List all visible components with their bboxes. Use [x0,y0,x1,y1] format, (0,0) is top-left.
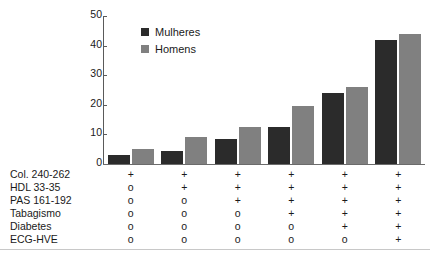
factor-cell: + [388,207,408,220]
factor-cell: + [281,168,301,181]
bar-chart-figure: 01020304050 MulheresHomens Col. 240-262+… [0,0,430,253]
y-axis-tick-label: 40 [90,39,102,50]
y-axis-tick-label: 10 [90,127,102,138]
factor-cell: o [335,233,355,246]
factor-row: HDL 33-35o+++++ [0,181,430,194]
factor-cell: + [335,207,355,220]
factor-cell: + [281,194,301,207]
legend-item: Mulheres [141,24,200,39]
factor-cell: + [388,168,408,181]
bar-mulheres [268,127,290,164]
bar-mulheres [161,151,183,164]
factor-cell: + [388,194,408,207]
risk-factor-table: Col. 240-262++++++HDL 33-35o+++++PAS 161… [0,168,430,248]
y-axis-tick-label: 50 [90,9,102,20]
y-axis-tick-label: 20 [90,98,102,109]
legend-swatch [141,45,149,53]
bottom-divider [0,249,430,250]
factor-cell: + [388,181,408,194]
factor-cell: + [174,181,194,194]
bar-homens [399,34,421,164]
factor-cell: o [121,181,141,194]
factor-row-label: Tabagismo [10,207,61,220]
bar-group [268,16,314,164]
chart-legend: MulheresHomens [141,24,200,58]
factor-row-label: HDL 33-35 [10,181,60,194]
bar-mulheres [322,93,344,164]
factor-cell: o [174,220,194,233]
factor-cell: + [281,181,301,194]
legend-label: Mulheres [155,26,200,38]
bar-homens [185,137,207,164]
factor-cell: o [174,194,194,207]
legend-swatch [141,28,149,36]
bar-homens [132,149,154,164]
factor-cell: + [388,220,408,233]
bar-homens [239,127,261,164]
factor-row-label: PAS 161-192 [10,194,72,207]
factor-cell: o [281,233,301,246]
factor-row-label: Col. 240-262 [10,168,70,181]
factor-cell: + [228,168,248,181]
bar-mulheres [375,40,397,164]
factor-cell: + [121,168,141,181]
bar-group [322,16,368,164]
factor-cell: + [335,194,355,207]
factor-cell: o [174,233,194,246]
bar-homens [292,106,314,164]
factor-cell: + [335,220,355,233]
factor-cell: o [121,233,141,246]
factor-cell: o [228,220,248,233]
factor-cell: + [281,207,301,220]
factor-row: PAS 161-192oo++++ [0,194,430,207]
factor-cell: + [174,168,194,181]
factor-cell: o [281,220,301,233]
factor-row-label: Diabetes [10,220,51,233]
factor-cell: + [335,181,355,194]
factor-cell: o [228,207,248,220]
legend-label: Homens [155,43,196,55]
y-axis-tick-label: 30 [90,68,102,79]
factor-row: Diabetesoooo++ [0,220,430,233]
factor-cell: o [174,207,194,220]
legend-item: Homens [141,41,200,56]
bar-homens [346,87,368,164]
factor-cell: + [335,168,355,181]
factor-row: ECG-HVEooooo+ [0,233,430,246]
bar-mulheres [215,139,237,164]
factor-row: Col. 240-262++++++ [0,168,430,181]
x-axis-baseline [103,164,425,165]
factor-row: Tabagismoooo+++ [0,207,430,220]
factor-cell: o [121,207,141,220]
factor-cell: + [228,194,248,207]
factor-cell: o [121,194,141,207]
factor-row-label: ECG-HVE [10,233,58,246]
bar-group [375,16,421,164]
factor-cell: o [228,233,248,246]
factor-cell: o [121,220,141,233]
y-axis-tick-label: 0 [96,157,102,168]
factor-cell: + [228,181,248,194]
plot-area: 01020304050 [0,0,430,170]
bar-mulheres [108,155,130,164]
bar-group [215,16,261,164]
factor-cell: + [388,233,408,246]
